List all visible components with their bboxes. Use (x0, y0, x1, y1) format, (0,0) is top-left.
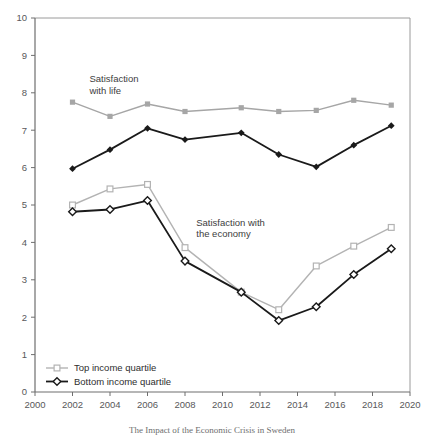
x-tick-label: 2000 (24, 399, 45, 410)
x-tick-label: 2006 (137, 399, 158, 410)
data-point (351, 243, 357, 249)
figure-caption: The Impact of the Economic Crisis in Swe… (129, 425, 296, 435)
y-tick-label: 10 (16, 12, 27, 23)
x-tick-label: 2018 (362, 399, 383, 410)
annotation-line-2: with life (88, 85, 121, 96)
line-chart: 012345678910 200020022004200620082010201… (0, 0, 425, 435)
data-point (351, 98, 356, 103)
data-point (107, 114, 112, 119)
y-tick-label: 0 (22, 386, 27, 397)
legend-label: Bottom income quartile (74, 376, 171, 387)
y-tick-label: 8 (22, 87, 27, 98)
data-point (239, 105, 244, 110)
data-point (313, 263, 319, 269)
y-tick-label: 1 (22, 349, 27, 360)
data-point (107, 186, 113, 192)
chart-container: 012345678910 200020022004200620082010201… (0, 0, 425, 435)
x-tick-label: 2004 (99, 399, 120, 410)
data-point (70, 100, 75, 105)
legend-label: Top income quartile (74, 362, 156, 373)
data-point (389, 103, 394, 108)
x-tick-label: 2012 (249, 399, 270, 410)
caption-text: The Impact of the Economic Crisis in Swe… (129, 425, 296, 435)
data-point (145, 101, 150, 106)
legend-swatch-marker (54, 365, 60, 371)
data-point (145, 182, 151, 188)
annotation-line-2: the economy (196, 228, 251, 239)
y-tick-label: 7 (22, 125, 27, 136)
annotation-line-1: Satisfaction (89, 73, 138, 84)
y-tick-label: 9 (22, 50, 27, 61)
x-tick-label: 2020 (399, 399, 420, 410)
data-point (182, 109, 187, 114)
x-tick-label: 2008 (174, 399, 195, 410)
annotation-line-1: Satisfaction with (196, 217, 265, 228)
data-point (388, 225, 394, 231)
y-tick-label: 5 (22, 199, 27, 210)
y-tick-label: 4 (22, 237, 27, 248)
data-point (276, 109, 281, 114)
y-tick-label: 2 (22, 312, 27, 323)
x-tick-label: 2002 (62, 399, 83, 410)
y-tick-label: 6 (22, 162, 27, 173)
x-tick-label: 2010 (212, 399, 233, 410)
data-point (182, 245, 188, 251)
x-tick-label: 2014 (287, 399, 308, 410)
y-tick-label: 3 (22, 274, 27, 285)
data-point (276, 307, 282, 313)
x-tick-label: 2016 (324, 399, 345, 410)
data-point (314, 108, 319, 113)
